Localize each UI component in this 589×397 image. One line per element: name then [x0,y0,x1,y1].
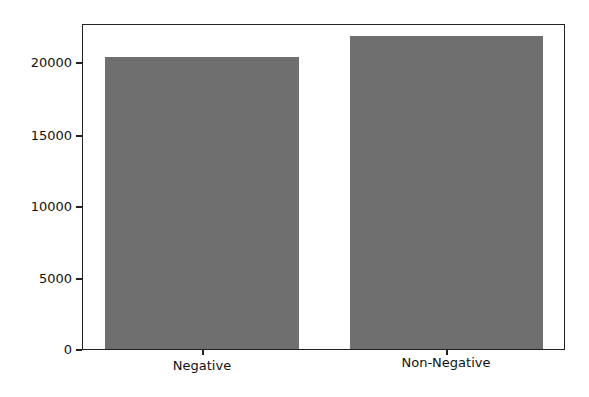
y-tick-label: 0 [0,342,72,357]
bar-non-negative [350,36,543,349]
x-tick-label-non-negative: Non-Negative [366,355,526,370]
y-tick-label: 15000 [0,128,72,143]
plot-area [82,24,565,350]
y-tick-mark [76,62,82,64]
y-tick-mark [76,278,82,280]
y-tick-label: 10000 [0,199,72,214]
x-tick-mark [202,350,204,355]
y-tick-mark [76,206,82,208]
bar-negative [105,57,299,349]
y-tick-label: 5000 [0,271,72,286]
y-tick-label: 20000 [0,55,72,70]
x-tick-label-negative: Negative [122,358,282,373]
y-tick-mark [76,349,82,351]
y-tick-mark [76,135,82,137]
